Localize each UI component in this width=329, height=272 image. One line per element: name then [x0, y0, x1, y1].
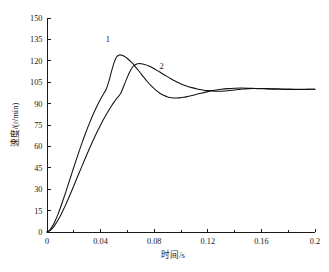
x-tick-label-0.04: 0.04: [93, 237, 108, 246]
y-tick-label-120: 120: [30, 57, 42, 66]
y-tick-label-45: 45: [34, 164, 42, 173]
y-tick-label-15: 15: [34, 207, 42, 216]
x-tick-label-0.16: 0.16: [254, 237, 269, 246]
y-tick-label-135: 135: [30, 35, 42, 44]
x-tick-label-0: 0: [45, 237, 49, 246]
x-tick-label-0.12: 0.12: [201, 237, 216, 246]
y-tick-label-30: 30: [34, 185, 42, 194]
figure-caption-strip: [0, 266, 329, 272]
y-tick-label-0: 0: [38, 228, 42, 237]
y-tick-label-105: 105: [30, 78, 42, 87]
y-tick-label-150: 150: [30, 14, 42, 23]
speed-vs-time-line-chart: 015304560759010512013515000.040.080.120.…: [0, 0, 329, 272]
y-axis-title: 速度/(r/min): [9, 102, 20, 147]
curve-label-1: 1: [106, 34, 110, 44]
chart-figure: 015304560759010512013515000.040.080.120.…: [0, 0, 329, 272]
y-tick-label-75: 75: [34, 121, 42, 130]
y-tick-label-60: 60: [34, 142, 42, 151]
curve-label-2: 2: [159, 61, 163, 71]
x-axis-title: 时间/s: [161, 249, 185, 260]
y-tick-label-90: 90: [34, 100, 42, 109]
x-tick-label-0.08: 0.08: [147, 237, 162, 246]
x-tick-label-0.2: 0.2: [310, 237, 320, 246]
